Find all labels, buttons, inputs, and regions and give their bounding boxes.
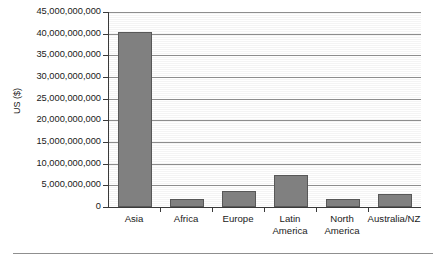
y-axis-tick-label: 5,000,000,000 <box>0 180 101 189</box>
footer-divider <box>13 253 433 254</box>
gridline <box>109 55 421 56</box>
gridline <box>109 185 421 186</box>
y-axis-tick-label: 30,000,000,000 <box>0 72 101 81</box>
gridline <box>109 77 421 78</box>
x-axis-tick-mark <box>160 208 161 212</box>
bar <box>118 32 152 208</box>
plot-area <box>108 12 421 208</box>
y-axis-tick-mark <box>103 55 109 56</box>
y-axis-tick-labels: 05,000,000,00010,000,000,00015,000,000,0… <box>0 0 101 265</box>
y-axis-tick-mark <box>103 120 109 121</box>
gridline <box>109 12 421 13</box>
x-axis-category-label-line: America <box>309 225 375 237</box>
y-axis-tick-label: 20,000,000,000 <box>0 115 101 124</box>
y-axis-tick-label: 25,000,000,000 <box>0 94 101 103</box>
x-axis-tick-mark <box>316 208 317 212</box>
y-axis-tick-mark <box>103 12 109 13</box>
y-axis-tick-label: 35,000,000,000 <box>0 50 101 59</box>
gridline <box>109 120 421 121</box>
y-axis-tick-mark <box>103 77 109 78</box>
x-axis-tick-mark <box>264 208 265 212</box>
bar <box>170 199 204 207</box>
gridline <box>109 164 421 165</box>
gridline <box>109 142 421 143</box>
x-axis-tick-mark <box>212 208 213 212</box>
y-axis-tick-mark <box>103 185 109 186</box>
x-axis-category-label: Australia/NZ <box>361 213 427 225</box>
y-axis-tick-mark <box>103 99 109 100</box>
y-axis-tick-mark <box>103 142 109 143</box>
bar <box>274 175 308 208</box>
y-axis-tick-mark <box>103 207 109 208</box>
x-axis-category-label-line: Australia/NZ <box>361 213 427 225</box>
x-axis-tick-mark <box>368 208 369 212</box>
y-axis-tick-label: 15,000,000,000 <box>0 137 101 146</box>
y-axis-tick-mark <box>103 34 109 35</box>
gridline <box>109 34 421 35</box>
y-axis-tick-label: 10,000,000,000 <box>0 159 101 168</box>
bar <box>378 194 412 207</box>
y-axis-tick-mark <box>103 164 109 165</box>
bar <box>222 191 256 207</box>
gridline <box>109 99 421 100</box>
y-axis-tick-label: 40,000,000,000 <box>0 29 101 38</box>
bar <box>326 199 360 207</box>
y-axis-tick-label: 45,000,000,000 <box>0 7 101 16</box>
y-axis-tick-label: 0 <box>0 202 101 211</box>
bar-chart-figure: US ($) 05,000,000,00010,000,000,00015,00… <box>0 0 446 265</box>
